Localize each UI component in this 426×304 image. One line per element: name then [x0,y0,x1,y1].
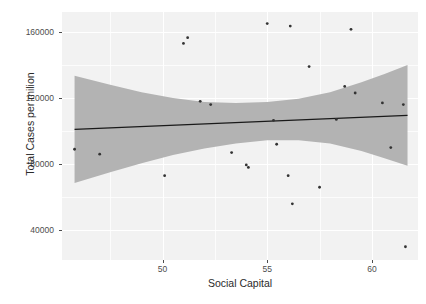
data-point [389,146,392,149]
data-point [291,202,294,205]
scatter-plot-figure: are significantly higher than the number… [0,0,426,304]
x-axis-tick-mark [163,260,164,263]
data-point [182,42,185,45]
data-point [230,151,233,154]
data-point [381,102,384,105]
plot-panel [62,12,418,260]
x-axis-title: Social Capital [62,277,418,289]
y-axis-tick-mark [59,230,62,231]
scatter-points [62,12,418,260]
data-point [354,92,357,95]
data-point [186,36,189,39]
y-axis-tick-mark [59,164,62,165]
y-axis-tick-mark [59,32,62,33]
plot-panel-inner [62,12,418,260]
data-point [289,25,292,28]
x-axis-tick-label: 60 [352,264,392,274]
data-point [266,22,269,25]
data-point [73,148,76,151]
data-point [335,118,338,121]
y-axis-tick-mark [59,98,62,99]
data-point [402,103,405,106]
data-point [318,186,321,189]
y-axis-tick-label: 40000 [4,225,54,235]
x-axis-tick-mark [267,260,268,263]
x-axis-tick-label: 55 [247,264,287,274]
x-axis-tick-label: 50 [143,264,183,274]
data-point [245,164,248,167]
data-point [163,174,166,177]
y-axis-title: Total Cases per milion [24,34,36,214]
data-point [308,65,311,68]
data-point [209,103,212,106]
data-point [199,100,202,103]
data-point [247,166,250,169]
data-point [404,245,407,248]
data-point [98,153,101,156]
data-point [275,143,278,146]
x-axis-tick-mark [372,260,373,263]
data-point [343,85,346,88]
data-point [350,28,353,31]
data-point [272,119,275,122]
data-point [287,174,290,177]
